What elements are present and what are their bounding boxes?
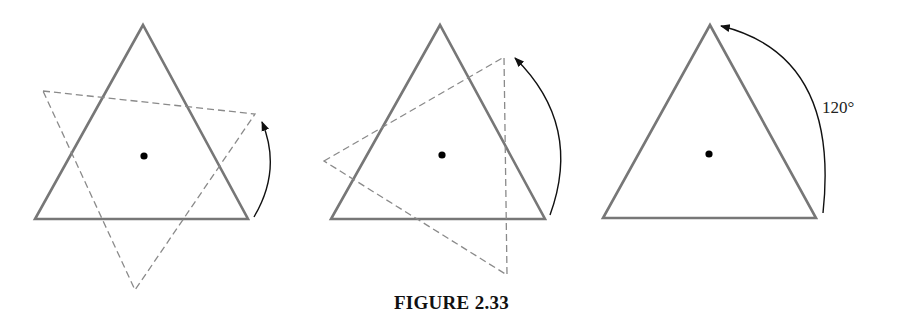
solid-triangle	[603, 25, 816, 218]
rotation-arrow	[254, 122, 270, 217]
rotation-arrow	[721, 26, 825, 213]
panel-3: 120°	[603, 25, 854, 218]
dashed-rotated-triangle	[324, 57, 507, 275]
center-dot	[705, 150, 712, 157]
rotation-arrow	[515, 58, 561, 215]
angle-label: 120°	[822, 98, 854, 117]
figure-caption: FIGURE 2.33	[0, 292, 903, 314]
solid-triangle	[331, 25, 545, 219]
center-dot	[140, 152, 147, 159]
dashed-rotated-triangle	[43, 91, 255, 290]
panel-2	[324, 25, 561, 275]
rotation-figure: 120°	[0, 0, 903, 326]
panel-1	[35, 25, 270, 290]
center-dot	[438, 151, 445, 158]
solid-triangle	[35, 25, 248, 219]
